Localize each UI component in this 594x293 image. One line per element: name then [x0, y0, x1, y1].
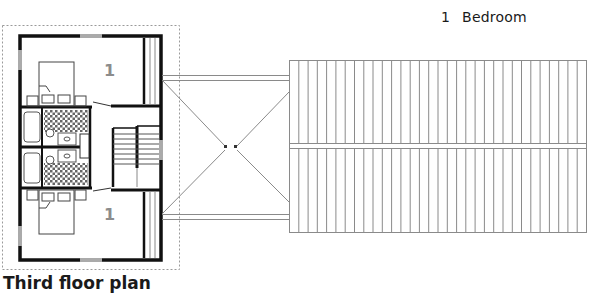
bridge-post — [224, 145, 227, 148]
room-number-lower: 1 — [104, 205, 115, 224]
bed-lower — [27, 190, 86, 234]
bridge-post — [234, 145, 237, 148]
house — [18, 34, 163, 262]
plan-title: Third floor plan — [3, 273, 151, 293]
roof — [289, 60, 587, 233]
tiled-floor — [44, 163, 88, 185]
bed-upper — [27, 62, 86, 106]
room-number-upper: 1 — [104, 61, 115, 80]
staircase — [113, 126, 163, 187]
